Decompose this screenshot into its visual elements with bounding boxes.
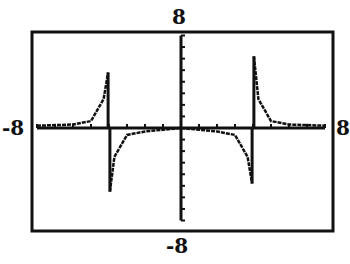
axes bbox=[37, 36, 325, 221]
